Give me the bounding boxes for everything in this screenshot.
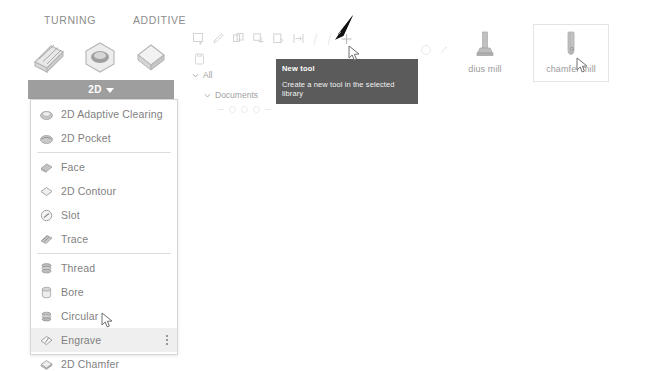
circular-icon [39, 309, 54, 324]
menu-item-label: Trace [61, 233, 88, 245]
trace-icon [39, 232, 54, 247]
menu-item-label: 2D Pocket [61, 132, 111, 144]
menu-item-label: Thread [61, 262, 95, 274]
tool-card-radius-mill[interactable]: dius mill [447, 24, 523, 82]
menu-separator [37, 253, 171, 254]
duplicate-tool-icon[interactable] [232, 32, 245, 45]
slot-icon [39, 208, 54, 223]
cursor-chamfer-mill [576, 57, 589, 74]
toolbar-divider [314, 33, 318, 45]
chamfer-icon [39, 357, 54, 371]
menu-separator [37, 152, 171, 153]
additive-layer-icon[interactable] [130, 37, 172, 77]
pocket-icon [39, 131, 54, 146]
menu-item-label: Engrave [61, 334, 101, 346]
menu-item-2d-adaptive-clearing[interactable]: 2D Adaptive Clearing [31, 102, 177, 126]
new-tool-tooltip: New tool Create a new tool in the select… [276, 59, 418, 104]
contour-icon [39, 184, 54, 199]
chevron-down-icon[interactable] [192, 72, 199, 79]
black-arrow-annotation [329, 12, 357, 42]
tab-additive[interactable]: ADDITIVE [133, 14, 186, 26]
menu-item-label: Bore [61, 286, 84, 298]
menu-item-2d-contour[interactable]: 2D Contour [31, 179, 177, 203]
edit-tool-icon[interactable] [212, 32, 225, 45]
turning-profile-icon[interactable] [28, 37, 70, 77]
tooltip-body: Create a new tool in the selected librar… [282, 80, 412, 98]
more-options-icon[interactable] [166, 335, 168, 345]
menu-item-trace[interactable]: Trace [31, 227, 177, 251]
tree-faint-decoration [218, 106, 271, 113]
tab-turning[interactable]: TURNING [44, 14, 96, 26]
menu-item-label: 2D Adaptive Clearing [61, 108, 163, 120]
tree-node-all[interactable]: All [192, 70, 212, 80]
new-tool-icon[interactable] [192, 32, 205, 45]
menu-item-engrave[interactable]: Engrave [31, 328, 177, 352]
turning-groove-icon[interactable] [79, 37, 121, 77]
menu-item-face[interactable]: Face [31, 155, 177, 179]
menu-item-label: Slot [61, 209, 80, 221]
paste-tool-icon[interactable] [272, 32, 285, 45]
menu-item-thread[interactable]: Thread [31, 256, 177, 280]
tree-node-label: All [203, 70, 212, 80]
engrave-icon [39, 333, 54, 348]
adaptive-clearing-icon [39, 107, 54, 122]
tooltip-title: New tool [282, 64, 412, 73]
menu-item-label: 2D Chamfer [61, 358, 119, 370]
menu-item-bore[interactable]: Bore [31, 280, 177, 304]
menu-item-2d-pocket[interactable]: 2D Pocket [31, 126, 177, 150]
radius-mill-icon [472, 31, 498, 61]
chevron-down-icon[interactable] [204, 92, 211, 99]
bore-icon [39, 285, 54, 300]
tool-card-chamfer-mill[interactable]: chamfer mill [533, 24, 609, 82]
menu-item-2d-chamfer[interactable]: 2D Chamfer [31, 352, 177, 371]
cursor-new-tool [348, 45, 361, 62]
chevron-down-icon [106, 88, 114, 93]
library-icon[interactable] [193, 52, 206, 66]
import-tool-icon[interactable] [292, 32, 305, 45]
ribbon-icon-group [28, 36, 180, 78]
twod-dropdown-label: 2D [88, 84, 102, 95]
menu-item-label: 2D Contour [61, 185, 116, 197]
menu-item-label: Circular [61, 310, 98, 322]
tree-node-documents[interactable]: Documents [204, 90, 258, 100]
face-icon [39, 160, 54, 175]
cursor-engrave [101, 312, 114, 329]
tree-node-label: Documents [215, 90, 258, 100]
copy-tool-icon[interactable] [252, 32, 265, 45]
menu-item-label: Face [61, 161, 85, 173]
thread-icon [39, 261, 54, 276]
tool-card-label: dius mill [468, 64, 501, 74]
menu-item-slot[interactable]: Slot [31, 203, 177, 227]
twod-dropdown-button[interactable]: 2D [28, 80, 174, 99]
